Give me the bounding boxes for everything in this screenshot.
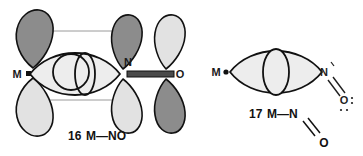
caption-formula-17: M—N	[267, 107, 298, 121]
structure-17-group: M N O 17 M—N	[211, 49, 353, 150]
lobe-o-top-light	[155, 15, 186, 69]
atom-label-o-17: O	[340, 94, 349, 106]
atom-label-m-16: M	[12, 68, 21, 80]
atom-label-m-17: M	[211, 66, 220, 78]
sigma-lens-inner-circle-16	[53, 54, 89, 90]
structure-16-group: M N O 16 M—NO	[12, 10, 185, 143]
nitrogen-lone-pair-tick-17	[331, 62, 334, 66]
caption-number-17: 17	[249, 107, 263, 121]
caption-number-16: 16	[68, 129, 82, 143]
figure-root: M N O 16 M—NO M N O	[0, 0, 363, 156]
caption-double-bond-17	[303, 118, 320, 136]
atom-label-o-16: O	[176, 68, 185, 80]
lobe-o-bottom-dark	[155, 79, 186, 133]
metal-dot-16	[26, 71, 31, 76]
atom-label-n-17: N	[320, 66, 328, 78]
bond-bar-n-o	[127, 71, 174, 77]
caption-oxygen-17: O	[319, 136, 328, 150]
lobe-n-bottom-light	[112, 79, 143, 133]
metal-dot-17	[223, 69, 228, 74]
atom-label-n-16: N	[124, 56, 132, 68]
sigma-lens-inner-ellipse-17	[263, 49, 289, 95]
caption-formula-16: M—NO	[86, 129, 126, 143]
orbital-diagram-svg: M N O 16 M—NO M N O	[0, 0, 363, 156]
